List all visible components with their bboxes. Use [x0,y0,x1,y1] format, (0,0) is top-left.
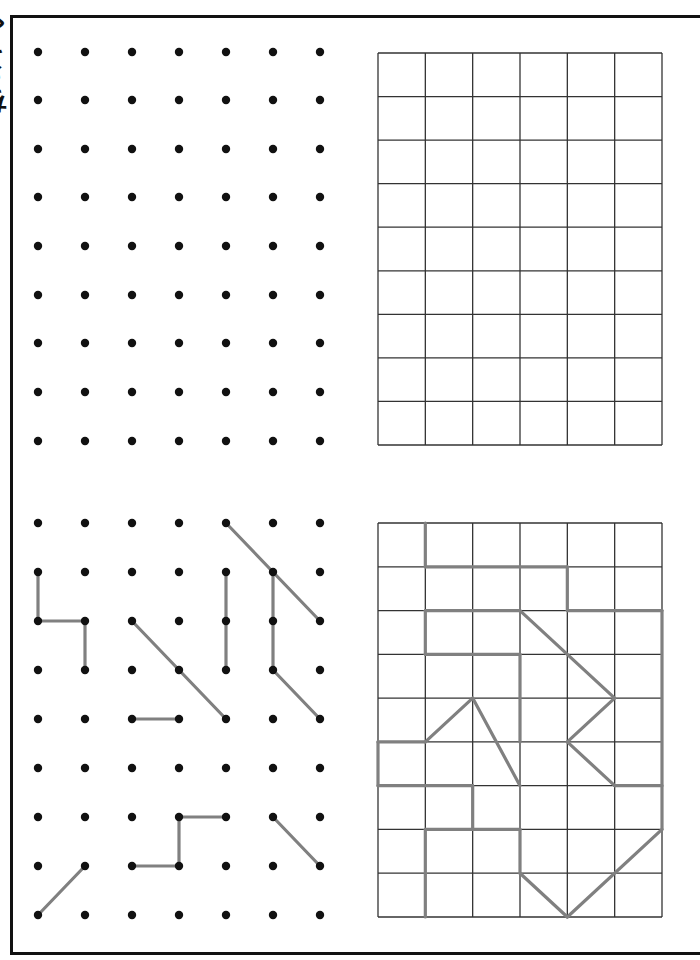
grid-dot [34,519,42,527]
grid-dot [175,519,183,527]
grid-dot [222,48,230,56]
grid-dot [81,519,89,527]
grid-dot [316,764,324,772]
grid-dot [175,96,183,104]
grid-dot [269,388,277,396]
grid-dot [81,764,89,772]
grid-dot [175,193,183,201]
grid-dot [269,568,277,576]
grid-dot [128,764,136,772]
grid-dot [316,388,324,396]
grid-dot [128,388,136,396]
grid-dot [128,96,136,104]
grid-dot [34,48,42,56]
drawn-segment [567,742,614,786]
grid-dot [81,568,89,576]
grid-dot [81,145,89,153]
grid-dot [34,715,42,723]
grid-dot [175,813,183,821]
grid-dot [175,568,183,576]
grid-dot [128,666,136,674]
grid-dot [269,666,277,674]
grid-dot [175,388,183,396]
grid-dot [269,764,277,772]
grid-dot [269,291,277,299]
grid-dot [222,568,230,576]
grid-dot [175,242,183,250]
grid-dot [81,666,89,674]
grid-dot [269,813,277,821]
grid-dot [81,96,89,104]
grid-dot [222,813,230,821]
grid-dot [316,666,324,674]
grid-dot [222,911,230,919]
grid-dot [222,666,230,674]
grid-dot [81,437,89,445]
grid-dot [128,519,136,527]
grid-dot [128,339,136,347]
grid-dot [269,96,277,104]
grid-dot [81,242,89,250]
grid-dot [222,145,230,153]
grid-dot [175,862,183,870]
grid-dot [175,764,183,772]
grid-dot [34,96,42,104]
grid-dot [222,242,230,250]
grid-dot [34,242,42,250]
grid-dot [34,193,42,201]
grid-dot [269,862,277,870]
drawn-segment [273,670,320,719]
grid-dot [222,291,230,299]
grid-dot [222,715,230,723]
grid-dot [81,617,89,625]
grid-dot [175,666,183,674]
grid-dot [34,617,42,625]
grid-dot [128,911,136,919]
drawn-segment [38,866,85,915]
grid-dot [269,145,277,153]
grid-dot [316,96,324,104]
grid-dot [316,48,324,56]
grid-dot [269,519,277,527]
dot-grid-top [34,48,324,445]
grid-dot [81,862,89,870]
grid-dot [34,145,42,153]
grid-dot [128,862,136,870]
square-grid-top [378,53,662,445]
grid-dot [128,715,136,723]
grid-dot [269,193,277,201]
grid-dot [34,764,42,772]
grid-dot [222,437,230,445]
grid-dot [128,291,136,299]
grid-dot [316,519,324,527]
grid-dot [81,911,89,919]
grid-dot [81,388,89,396]
grid-dot [81,813,89,821]
drawn-segment [567,698,614,742]
grid-dot [269,617,277,625]
grid-dot [316,193,324,201]
grid-dot [34,388,42,396]
grid-dot [128,813,136,821]
grid-dot [222,96,230,104]
grid-dot [34,568,42,576]
grid-dot [222,388,230,396]
grid-dot [34,339,42,347]
grid-dot [316,568,324,576]
grid-dot [34,911,42,919]
grid-dot [175,291,183,299]
grid-dot [34,666,42,674]
grid-dot [128,193,136,201]
grid-dot [34,813,42,821]
grid-dot [34,291,42,299]
grid-dot [222,193,230,201]
grid-dot [316,715,324,723]
grid-dot [222,339,230,347]
grid-dot [34,862,42,870]
grid-dot [128,568,136,576]
grid-dot [316,242,324,250]
grid-dot [81,48,89,56]
grid-dot [269,715,277,723]
drawn-segment [520,873,567,917]
